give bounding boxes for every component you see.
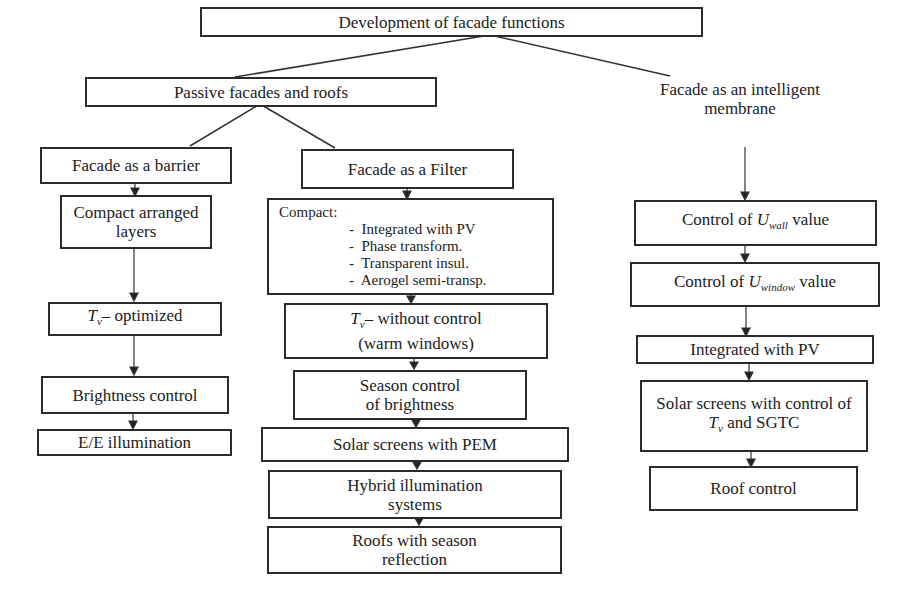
roof-control-node: Roof control: [649, 466, 858, 511]
value-text: value: [788, 210, 829, 229]
barrier-node: Facade as a barrier: [40, 147, 232, 184]
compact-item: Transparent insul.: [349, 255, 486, 272]
uwindow-label: Control of Uwindow value: [674, 272, 836, 297]
brightness-control-node: Brightness control: [41, 376, 229, 414]
tv-without-text: – without control: [365, 309, 482, 328]
season-line2: of brightness: [360, 395, 461, 414]
season-line1: Season control: [360, 376, 461, 395]
integrated-pv-label: Integrated with PV: [690, 340, 819, 359]
window-subscript: window: [761, 281, 795, 293]
value-text: value: [795, 272, 836, 291]
compact-list-node: Compact: Integrated with PV Phase transf…: [267, 198, 554, 295]
integrated-pv-node: Integrated with PV: [636, 335, 874, 364]
passive-facades-node: Passive facades and roofs: [85, 77, 437, 107]
control-of-text: Control of: [674, 272, 749, 291]
tv-optimized-node: Tv– optimized: [48, 302, 222, 336]
passive-facades-label: Passive facades and roofs: [174, 83, 348, 102]
solar-pem-label: Solar screens with PEM: [333, 435, 497, 454]
sgtc-text: and SGTC: [723, 413, 800, 432]
compact-item: Integrated with PV: [349, 221, 486, 238]
brightness-label: Brightness control: [72, 386, 197, 405]
hybrid-illumination-node: Hybrid illumination systems: [268, 470, 562, 519]
tv-optimized-label: Tv– optimized: [87, 306, 182, 331]
compact-layers-node: Compact arranged layers: [60, 195, 212, 249]
compact-items-list: Integrated with PV Phase transform. Tran…: [349, 221, 486, 289]
root-label: Development of facade functions: [338, 13, 564, 32]
uwall-label: Control of Uwall value: [682, 210, 829, 235]
wall-subscript: wall: [769, 220, 788, 232]
tv-optimized-text: – optimized: [102, 306, 183, 325]
roofs-season-node: Roofs with season reflection: [267, 526, 562, 574]
u-symbol: U: [757, 210, 769, 229]
intelligent-membrane-node: Facade as an intelligent membrane: [640, 80, 840, 118]
compact-title: Compact:: [279, 204, 337, 221]
compact-layers-line1: Compact arranged: [73, 203, 198, 222]
roof-control-label: Roof control: [710, 479, 796, 498]
tv-without-line1: Tv– without control: [350, 309, 481, 334]
ee-illumination-label: E/E illumination: [78, 433, 191, 452]
hybrid-line2: systems: [347, 495, 483, 514]
u-symbol: U: [749, 272, 761, 291]
compact-item: Phase transform.: [349, 238, 486, 255]
barrier-label: Facade as a barrier: [72, 156, 200, 175]
warm-windows-text: (warm windows): [350, 334, 481, 353]
root-node: Development of facade functions: [200, 7, 703, 37]
membrane-label-line2: membrane: [640, 99, 840, 118]
solar-line2: Tv and SGTC: [656, 413, 851, 438]
hybrid-line1: Hybrid illumination: [347, 476, 483, 495]
season-brightness-node: Season control of brightness: [293, 370, 527, 420]
uwindow-node: Control of Uwindow value: [630, 262, 880, 307]
solar-line1: Solar screens with control of: [656, 394, 851, 413]
tv-symbol: T: [87, 306, 96, 325]
membrane-label-line1: Facade as an intelligent: [640, 80, 840, 99]
compact-layers-line2: layers: [73, 222, 198, 241]
filter-label: Facade as a Filter: [348, 160, 467, 179]
solar-pem-node: Solar screens with PEM: [261, 427, 569, 462]
tv-symbol: T: [350, 309, 359, 328]
tv-without-control-node: Tv– without control (warm windows): [284, 303, 548, 359]
ee-illumination-node: E/E illumination: [37, 429, 232, 456]
control-of-text: Control of: [682, 210, 757, 229]
tv-symbol: T: [709, 413, 718, 432]
filter-node: Facade as a Filter: [301, 149, 514, 189]
solar-screens-tv-node: Solar screens with control of Tv and SGT…: [640, 380, 868, 452]
roofs-line2: reflection: [352, 550, 477, 569]
uwall-node: Control of Uwall value: [634, 200, 877, 246]
roofs-line1: Roofs with season: [352, 531, 477, 550]
compact-item: Aerogel semi-transp.: [349, 272, 486, 289]
